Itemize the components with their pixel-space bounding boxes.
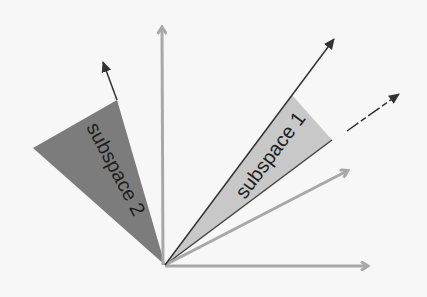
subspace-diagram: subspace 2 subspace 1	[0, 0, 427, 297]
subspace-2-vector-arrow	[103, 62, 117, 100]
subspace-1-lower-vector-arrow	[347, 94, 399, 131]
vertical-axis-arrow	[162, 28, 163, 265]
